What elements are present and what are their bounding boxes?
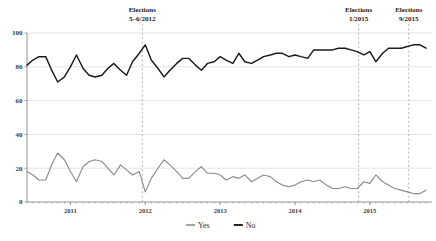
y-tick-label-40: 40	[16, 131, 24, 139]
legend-label-yes: Yes	[198, 221, 210, 230]
y-tick-label-80: 80	[16, 63, 24, 71]
annotation-elections-jan-2015: Elections1/2015	[345, 6, 372, 23]
axes	[27, 33, 432, 202]
annotation-elections-2012: Elections5–6/2012	[129, 6, 156, 23]
y-axis-tick-labels: 020406080100	[12, 29, 27, 206]
annotation-date-elections-jan-2015: 1/2015	[349, 15, 369, 23]
annotation-title-elections-sep-2015: Elections	[395, 6, 422, 14]
series-line-no	[27, 45, 426, 82]
x-tick-label-2013: 2013	[214, 207, 228, 214]
x-axis-tick-labels: 20112012201320142015	[64, 202, 377, 214]
legend-label-no: No	[246, 221, 256, 230]
annotation-title-elections-jan-2015: Elections	[345, 6, 372, 14]
y-tick-label-100: 100	[12, 29, 23, 37]
y-tick-label-60: 60	[16, 97, 24, 105]
series-line-yes	[27, 153, 426, 194]
annotation-date-elections-2012: 5–6/2012	[129, 15, 156, 23]
event-marker-lines	[142, 24, 409, 202]
annotation-title-elections-2012: Elections	[129, 6, 156, 14]
x-tick-label-2015: 2015	[363, 207, 377, 214]
x-tick-label-2011: 2011	[64, 207, 77, 214]
annotations: Elections5–6/2012Elections1/2015Election…	[129, 6, 423, 23]
annotation-date-elections-sep-2015: 9/2015	[399, 15, 419, 23]
x-tick-label-2012: 2012	[139, 207, 152, 214]
line-chart: 020406080100 20112012201320142015 Electi…	[0, 0, 436, 241]
y-tick-label-20: 20	[16, 165, 24, 173]
x-tick-label-2014: 2014	[289, 207, 303, 214]
annotation-elections-sep-2015: Elections9/2015	[395, 6, 422, 23]
chart-container: 020406080100 20112012201320142015 Electi…	[0, 0, 436, 241]
y-tick-label-0: 0	[19, 198, 23, 206]
chart-legend: YesNo	[186, 221, 256, 230]
